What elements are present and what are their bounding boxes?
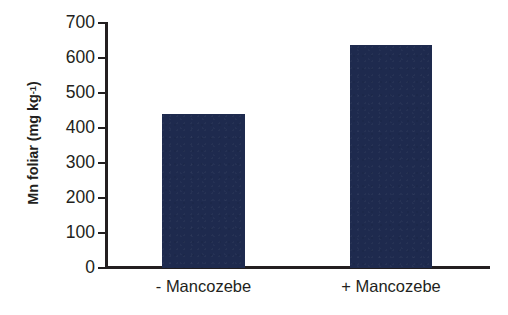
bar-chart: Mn foliar (mg kg-1) 01002003004005006007… <box>0 0 508 315</box>
y-axis-tick <box>98 22 105 24</box>
y-axis-tick <box>98 197 105 199</box>
y-axis-tick <box>98 232 105 234</box>
y-axis-tick-label: 600 <box>38 49 95 67</box>
y-axis-tick <box>98 92 105 94</box>
y-axis-tick <box>98 127 105 129</box>
y-axis-tick-label: 0 <box>38 259 95 277</box>
y-axis-tick <box>98 267 105 269</box>
y-axis-tick <box>98 162 105 164</box>
y-axis-tick-label: 300 <box>38 154 95 172</box>
bar <box>162 114 245 268</box>
y-axis-tick <box>98 57 105 59</box>
y-axis-tick-label: 400 <box>38 119 95 137</box>
y-axis-tick-label: 700 <box>38 14 95 32</box>
bar <box>350 45 432 268</box>
x-axis-category-label: - Mancozebe <box>134 278 274 295</box>
y-axis-tick-label: 500 <box>38 84 95 102</box>
y-axis-tick-label: 200 <box>38 189 95 207</box>
x-axis-category-label: + Mancozebe <box>321 278 461 295</box>
y-axis-tick-label: 100 <box>38 224 95 242</box>
plot-area <box>107 23 490 268</box>
